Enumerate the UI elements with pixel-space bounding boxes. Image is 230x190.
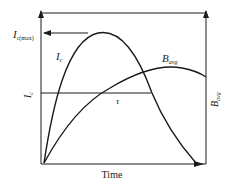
ic-curve-label: Ic — [55, 50, 63, 63]
tau-label: τ — [116, 96, 120, 106]
ic-level-label: Ic — [22, 92, 34, 99]
ic-max-label: Ic(max) — [12, 28, 34, 42]
ic-curve — [44, 32, 196, 163]
bavg-curve-label: Bavg — [162, 52, 177, 65]
bavg-axis-label: Bavg — [209, 92, 221, 107]
time-axis-label: Time — [102, 169, 123, 180]
ic-bavg-time-diagram: Ic(max) Ic Ic Bavg Bavg τ Time — [0, 0, 230, 190]
bavg-curve — [44, 67, 206, 163]
